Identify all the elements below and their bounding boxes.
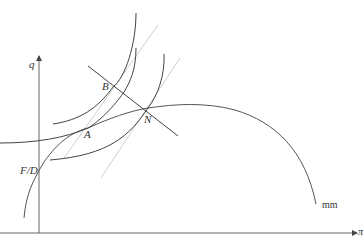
point-FD-label: F/D <box>20 165 38 176</box>
guide-line-1 <box>64 25 158 158</box>
mm-curve-label: mm <box>322 200 338 210</box>
pi-axis-label: π <box>358 227 363 237</box>
point-A-label: A <box>84 129 91 140</box>
diagram-canvas: q π mm B A N F/D <box>0 0 364 245</box>
point-N-label: N <box>144 114 151 125</box>
indifference-curve-1 <box>53 13 136 124</box>
indifference-curve-2 <box>0 48 136 143</box>
q-axis-label: q <box>29 59 35 70</box>
mm-curve <box>24 105 316 219</box>
point-B-label: B <box>102 81 109 92</box>
diagram-svg <box>0 0 364 245</box>
indifference-curve-3 <box>50 54 164 160</box>
